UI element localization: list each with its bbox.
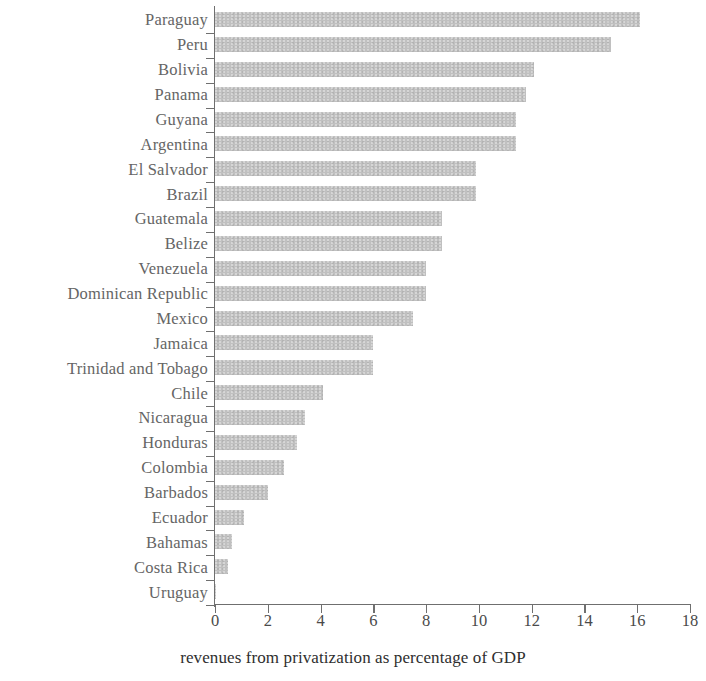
category-label: Honduras [0,435,208,452]
category-label: Mexico [0,311,208,328]
bar [215,62,534,77]
bar-row [215,8,690,33]
y-axis-tick [206,506,215,507]
category-label: Guatemala [0,211,208,228]
category-label: Dominican Republic [0,286,208,303]
bar-row [215,307,690,332]
x-axis-tick-label: 10 [471,613,488,630]
category-label: Trinidad and Tobago [0,361,208,378]
x-axis-tick-label: 14 [576,613,593,630]
x-axis-tick-label: 8 [422,613,430,630]
y-axis-tick [206,58,215,59]
x-axis-tick-label: 4 [316,613,324,630]
x-axis-tick-label: 18 [682,613,699,630]
category-label: Bahamas [0,535,208,552]
y-axis-tick [206,555,215,556]
bar [215,112,516,127]
bar [215,534,232,549]
bar-row [215,157,690,182]
bar [215,485,268,500]
category-label: Nicaragua [0,410,208,427]
category-label: Bolivia [0,62,208,79]
bar-row [215,282,690,307]
y-axis-tick [206,33,215,34]
bar [215,87,526,102]
x-axis-title: revenues from privatization as percentag… [0,648,706,668]
bar-row [215,506,690,531]
bar-row [215,33,690,58]
x-axis-tick-label: 2 [264,613,272,630]
category-label: Paraguay [0,12,208,29]
y-axis-tick [206,157,215,158]
bar [215,37,611,52]
category-label: Chile [0,386,208,403]
category-label: Barbados [0,485,208,502]
y-axis-tick [206,83,215,84]
bar-row [215,232,690,257]
bar-row [215,182,690,207]
y-axis-tick [206,307,215,308]
bar-row [215,555,690,580]
y-axis-tick [206,456,215,457]
bar-row [215,481,690,506]
bar [215,584,216,599]
bar-row [215,331,690,356]
category-label: Panama [0,87,208,104]
category-label: Argentina [0,137,208,154]
y-axis-tick [206,108,215,109]
y-axis-tick [206,481,215,482]
bar [215,261,426,276]
category-label: Peru [0,37,208,54]
bar [215,161,476,176]
y-axis-tick [206,406,215,407]
y-axis-tick [206,530,215,531]
bar-chart: ParaguayPeruBoliviaPanamaGuyanaArgentina… [0,0,706,681]
bar [215,559,228,574]
bar-row [215,381,690,406]
bar [215,335,373,350]
bar [215,186,476,201]
bar-row [215,108,690,133]
bar [215,211,442,226]
category-label: Colombia [0,460,208,477]
y-axis-tick [206,182,215,183]
bar [215,12,640,27]
bar-row [215,83,690,108]
y-axis-tick [206,605,215,606]
bar-row [215,431,690,456]
bar [215,410,305,425]
y-axis-tick [206,132,215,133]
y-axis-tick [206,381,215,382]
x-axis-tick-label: 0 [211,613,219,630]
y-axis-tick [206,580,215,581]
y-axis-tick [206,282,215,283]
bar [215,236,442,251]
y-axis-tick [206,331,215,332]
bar-row [215,356,690,381]
y-axis-tick [206,356,215,357]
x-axis-tick-label: 16 [629,613,646,630]
category-label: Ecuador [0,510,208,527]
y-axis-tick [206,431,215,432]
category-label: Uruguay [0,585,208,602]
bar [215,136,516,151]
bar-row [215,580,690,605]
bar [215,311,413,326]
category-label: Costa Rica [0,560,208,577]
category-label: Jamaica [0,336,208,353]
bar [215,385,323,400]
bar [215,510,244,525]
bar-row [215,257,690,282]
bar-row [215,406,690,431]
x-axis-tick-label: 6 [369,613,377,630]
bar [215,286,426,301]
bar-row [215,456,690,481]
bar-row [215,58,690,83]
bar [215,435,297,450]
category-label: Brazil [0,187,208,204]
category-label: Belize [0,236,208,253]
bar [215,460,284,475]
category-label: El Salvador [0,162,208,179]
bar-row [215,530,690,555]
y-axis-tick [206,257,215,258]
